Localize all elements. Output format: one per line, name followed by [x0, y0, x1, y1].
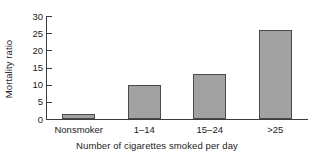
- x-axis-tick-label: Nonsmoker: [46, 123, 112, 136]
- y-axis-tick: 20: [47, 50, 52, 51]
- y-axis-tick-label: 15: [32, 61, 43, 74]
- x-axis-tick-label: 15–24: [177, 123, 243, 136]
- x-axis-title: Number of cigarettes smoked per day: [0, 139, 314, 152]
- y-axis-tick: 0: [47, 119, 52, 120]
- y-axis-tick-label: 20: [32, 44, 43, 57]
- y-axis-tick-label: 25: [32, 27, 43, 40]
- x-axis-line: [46, 119, 308, 120]
- y-axis-tick-label: 5: [38, 95, 43, 108]
- bar: [259, 30, 292, 119]
- y-axis-tick: 5: [47, 102, 52, 103]
- y-axis-tick: 15: [47, 68, 52, 69]
- y-axis-tick: 25: [47, 33, 52, 34]
- bar: [193, 74, 226, 119]
- bar: [128, 85, 161, 119]
- plot-area: 051015202530 Nonsmoker1–1415–24>25: [46, 16, 308, 119]
- x-axis-tick-label: >25: [243, 123, 309, 136]
- y-axis-tick-label: 10: [32, 78, 43, 91]
- y-axis-tick-label: 0: [38, 113, 43, 126]
- x-axis-tick-label: 1–14: [112, 123, 178, 136]
- y-axis-tick-label: 30: [32, 10, 43, 23]
- bar-chart-figure: Mortality ratio 051015202530 Nonsmoker1–…: [0, 0, 314, 160]
- y-axis-tick: 30: [47, 16, 52, 17]
- y-axis-title: Mortality ratio: [2, 10, 16, 128]
- bar: [62, 114, 95, 119]
- y-axis-tick: 10: [47, 85, 52, 86]
